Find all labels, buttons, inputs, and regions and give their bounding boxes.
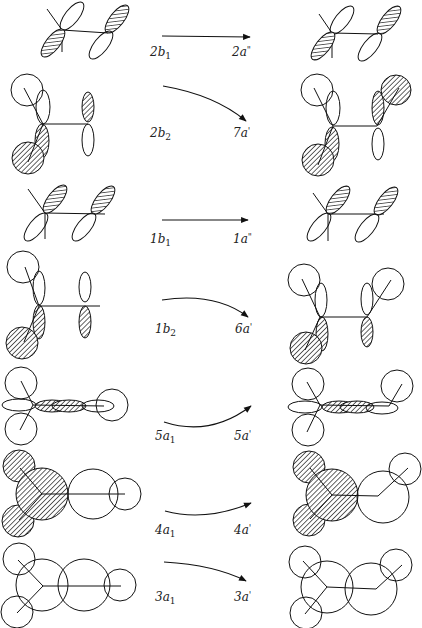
label-right: 1a: [233, 232, 248, 246]
label-left: 2b: [149, 126, 165, 140]
orbital-right-3a-prime: [289, 546, 412, 628]
label-right: 3a: [234, 590, 249, 604]
label-right: 4a: [233, 523, 249, 537]
label-left: 2b: [149, 45, 165, 59]
correlation-arrow: [162, 36, 250, 37]
orbital-right-7a-prime: [301, 74, 411, 176]
orbital-left-5a1: [2, 367, 128, 445]
label-left: 4a: [154, 523, 170, 537]
row-2b2: 2b2 7a': [11, 74, 411, 176]
svg-text:2b2: 2b2: [149, 126, 171, 142]
svg-text:1b2: 1b2: [155, 322, 176, 338]
label-right: 7a: [233, 126, 248, 140]
orbital-left-1b2: [6, 251, 100, 359]
orbital-right-2a-dprime: [307, 2, 405, 64]
label-right: 6a: [235, 322, 250, 336]
orbital-left-3a1: [1, 543, 136, 628]
orbital-left-2b2: [11, 74, 94, 174]
orbital-left-4a1: [2, 450, 141, 537]
svg-text:4a': 4a': [233, 523, 251, 537]
label-left: 5a: [155, 429, 170, 443]
svg-text:7a': 7a': [233, 126, 250, 140]
orbital-right-1a-dprime: [303, 182, 402, 245]
svg-text:6a': 6a': [235, 322, 252, 336]
svg-text:2b1: 2b1: [149, 45, 171, 61]
correlation-arrow: [163, 86, 246, 121]
svg-text:5a': 5a': [234, 429, 251, 443]
svg-text:5a1: 5a1: [155, 429, 176, 445]
orbital-correlation-diagram: 2b1 2a" 2b2 7a': [0, 0, 422, 628]
svg-text:3a1: 3a1: [155, 590, 176, 606]
row-4a1: 4a1 4a': [2, 450, 421, 539]
svg-text:1a": 1a": [233, 232, 252, 246]
label-left: 1b: [150, 232, 165, 246]
correlation-arrow: [164, 406, 251, 427]
row-1b2: 1b2 6a': [6, 251, 404, 364]
svg-text:4a1: 4a1: [154, 523, 176, 539]
row-1b1: 1b1 1a": [20, 181, 402, 248]
correlation-arrow: [162, 298, 248, 317]
correlation-arrow: [164, 562, 246, 581]
label-left: 3a: [155, 590, 170, 604]
label-left: 1b: [155, 322, 170, 336]
orbital-right-5a-prime: [288, 368, 413, 446]
correlation-arrow: [165, 503, 251, 515]
svg-text:1b1: 1b1: [150, 232, 171, 248]
row-2b1: 2b1 2a": [37, 0, 405, 65]
orbital-left-1b1: [20, 181, 119, 244]
orbital-right-4a-prime: [293, 451, 421, 536]
row-5a1: 5a1 5a': [2, 367, 413, 446]
svg-text:2a": 2a": [231, 45, 251, 59]
row-3a1: 3a1 3a': [1, 543, 412, 628]
svg-text:3a': 3a': [234, 590, 251, 604]
label-right: 5a: [234, 429, 249, 443]
orbital-left-2b1: [37, 0, 133, 63]
orbital-right-6a-prime: [288, 264, 404, 364]
label-right: 2a: [231, 45, 247, 59]
